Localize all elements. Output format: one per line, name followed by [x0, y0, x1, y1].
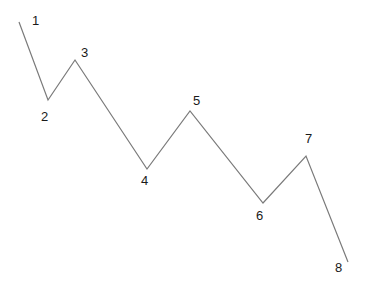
point-label-2: 2: [41, 109, 48, 124]
point-label-6: 6: [256, 208, 263, 223]
point-label-1: 1: [32, 13, 39, 28]
point-label-4: 4: [141, 173, 148, 188]
point-labels: 12345678: [32, 13, 342, 275]
point-label-8: 8: [335, 260, 342, 275]
point-label-5: 5: [193, 93, 200, 108]
wave-line: [19, 22, 348, 262]
point-label-7: 7: [305, 131, 312, 146]
wave-diagram: 12345678: [0, 0, 365, 289]
wave-svg: 12345678: [0, 0, 365, 289]
point-label-3: 3: [81, 45, 88, 60]
